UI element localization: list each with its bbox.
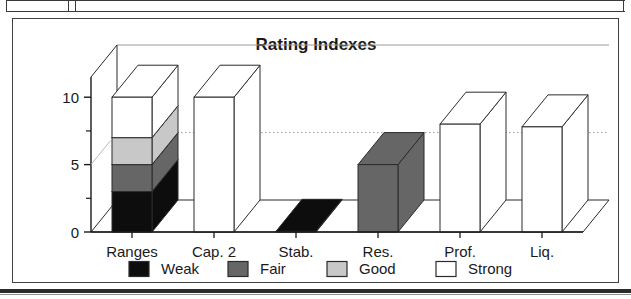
table-divider-col-2 bbox=[75, 0, 76, 12]
page-bottom-rule bbox=[0, 289, 631, 293]
rating-indexes-3d-bar-chart: Rating Indexes 0510 RangesCap. 2Stab.Res… bbox=[13, 19, 620, 282]
legend-swatch bbox=[436, 262, 456, 277]
bar-column bbox=[194, 65, 260, 232]
scanned-table-row-fragment bbox=[0, 0, 631, 14]
chart-legend: WeakFairGoodStrong bbox=[129, 260, 512, 277]
bar-column bbox=[276, 199, 342, 232]
table-divider-col-1 bbox=[68, 0, 69, 12]
legend-swatch bbox=[228, 262, 248, 277]
y-axis-top-depth-edge bbox=[91, 45, 117, 77]
legend-label: Fair bbox=[260, 260, 286, 277]
category-label: Liq. bbox=[530, 243, 554, 260]
bar-column bbox=[112, 65, 178, 232]
category-label: Ranges bbox=[106, 243, 158, 260]
bar-column bbox=[440, 92, 506, 232]
bar-segment bbox=[440, 92, 506, 232]
category-label: Cap. 2 bbox=[192, 243, 236, 260]
y-tick-label: 5 bbox=[71, 156, 79, 173]
y-axis: 0510 bbox=[62, 45, 117, 241]
table-divider-left bbox=[6, 0, 7, 12]
bar-face-front bbox=[358, 165, 398, 232]
bar-face-front bbox=[522, 127, 562, 232]
bar-face-front bbox=[112, 165, 152, 192]
bar-face-top bbox=[276, 199, 342, 231]
bar-face-front bbox=[112, 138, 152, 165]
bar-face-front bbox=[112, 97, 152, 137]
legend-swatch bbox=[129, 262, 149, 277]
bar-segment bbox=[194, 65, 260, 232]
bar-face-front bbox=[440, 124, 480, 232]
bar-segment bbox=[358, 133, 424, 232]
bar-column bbox=[522, 95, 588, 232]
x-axis: RangesCap. 2Stab.Res.Prof.Liq. bbox=[91, 232, 583, 260]
bar-segment bbox=[522, 95, 588, 232]
category-label: Res. bbox=[363, 243, 394, 260]
bar-column bbox=[358, 133, 424, 232]
bar-face-front bbox=[194, 97, 234, 232]
bar-segment bbox=[276, 199, 342, 232]
bars-group bbox=[112, 65, 588, 232]
y-tick-label: 0 bbox=[71, 224, 79, 241]
table-divider-right bbox=[623, 0, 624, 12]
chart-figure-frame: Rating Indexes 0510 RangesCap. 2Stab.Res… bbox=[12, 18, 619, 283]
legend-label: Weak bbox=[161, 260, 200, 277]
legend-label: Strong bbox=[468, 260, 512, 277]
category-label: Prof. bbox=[444, 243, 476, 260]
bar-face-front bbox=[112, 192, 152, 232]
table-rule-bottom bbox=[6, 11, 625, 12]
legend-label: Good bbox=[359, 260, 396, 277]
table-rule-top bbox=[6, 0, 625, 1]
y-tick-label: 10 bbox=[62, 89, 79, 106]
y-axis-depth-leader bbox=[91, 141, 111, 165]
page-bottom-rule-hairline bbox=[0, 294, 631, 295]
category-label: Stab. bbox=[278, 243, 313, 260]
legend-swatch bbox=[327, 262, 347, 277]
